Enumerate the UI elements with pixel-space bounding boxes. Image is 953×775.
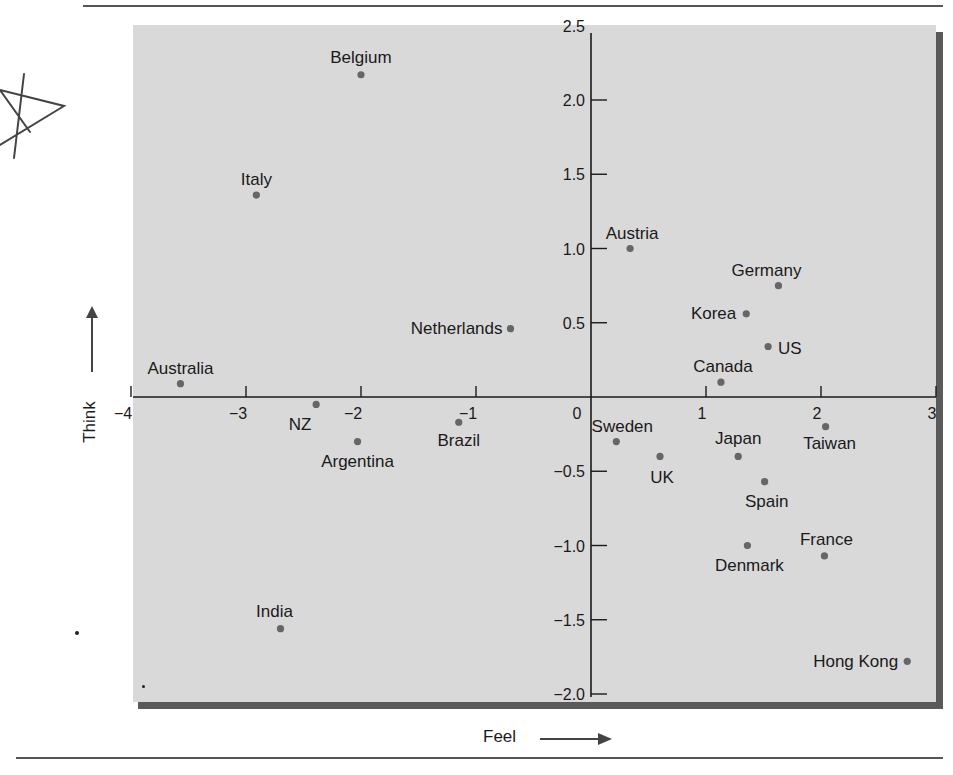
y-tick-label: −0.5 <box>553 463 585 480</box>
data-point <box>277 625 284 632</box>
data-point <box>313 401 320 408</box>
y-axis-title: Think <box>80 392 100 452</box>
data-point <box>357 71 364 78</box>
x-axis-title: Feel <box>483 727 516 747</box>
point-label: India <box>256 602 293 621</box>
data-point <box>761 478 768 485</box>
point-label: Netherlands <box>411 319 503 338</box>
data-point <box>717 379 724 386</box>
data-point <box>735 453 742 460</box>
point-label: Japan <box>715 429 761 448</box>
data-point <box>507 325 514 332</box>
x-tick-label: 1 <box>698 405 707 422</box>
data-point <box>656 453 663 460</box>
x-tick-label: −2 <box>344 405 362 422</box>
scatter-chart: −4−3−2−10123−2.0−1.5−1.0−0.50.51.01.52.0… <box>133 25 936 702</box>
point-label: Belgium <box>330 48 391 67</box>
x-tick-label: −3 <box>229 405 247 422</box>
point-label: Spain <box>745 492 788 511</box>
data-point <box>613 438 620 445</box>
data-point <box>744 542 751 549</box>
point-label: Germany <box>731 261 801 280</box>
bottom-rule <box>16 757 943 759</box>
point-label: Taiwan <box>803 434 856 453</box>
point-label: Brazil <box>437 431 480 450</box>
y-tick-label: −1.0 <box>553 538 585 555</box>
data-point <box>455 419 462 426</box>
point-label: Austria <box>606 224 659 243</box>
x-tick-label: 3 <box>928 405 937 422</box>
data-point <box>822 423 829 430</box>
point-label: NZ <box>289 415 312 434</box>
point-label: Argentina <box>321 452 394 471</box>
data-point <box>253 191 260 198</box>
data-point <box>627 245 634 252</box>
point-label: Hong Kong <box>813 652 898 671</box>
data-point <box>904 658 911 665</box>
x-axis-label: Feel <box>480 725 620 751</box>
y-tick-label: 2.5 <box>563 18 585 35</box>
plot-area: −4−3−2−10123−2.0−1.5−1.0−0.50.51.01.52.0… <box>133 25 936 702</box>
x-tick-label: −4 <box>114 405 132 422</box>
point-label: Australia <box>147 359 214 378</box>
y-tick-label: 1.5 <box>563 166 585 183</box>
data-point <box>775 282 782 289</box>
hand-drawn-star-icon <box>0 60 70 170</box>
data-point <box>354 438 361 445</box>
data-point <box>821 552 828 559</box>
point-label: Sweden <box>592 417 653 436</box>
x-tick-label: −1 <box>459 405 477 422</box>
point-label: Denmark <box>715 556 784 575</box>
point-label: Korea <box>691 304 737 323</box>
y-tick-label: 1.0 <box>563 241 585 258</box>
y-tick-label: 2.0 <box>563 92 585 109</box>
data-point <box>177 380 184 387</box>
point-label: France <box>800 530 853 549</box>
point-label: Italy <box>241 170 273 189</box>
right-arrow-icon <box>538 729 618 749</box>
point-label: UK <box>650 468 674 487</box>
x-tick-label: 0 <box>573 405 582 422</box>
point-label: US <box>778 339 802 358</box>
point-label: Canada <box>693 357 753 376</box>
top-rule <box>83 5 943 7</box>
data-point <box>765 343 772 350</box>
data-point <box>743 310 750 317</box>
y-tick-label: 0.5 <box>563 315 585 332</box>
stray-mark <box>75 631 79 635</box>
stray-mark <box>142 685 145 688</box>
y-axis-label: Think <box>72 300 112 480</box>
y-tick-label: −2.0 <box>553 686 585 703</box>
y-tick-label: −1.5 <box>553 612 585 629</box>
x-tick-label: 2 <box>813 405 822 422</box>
